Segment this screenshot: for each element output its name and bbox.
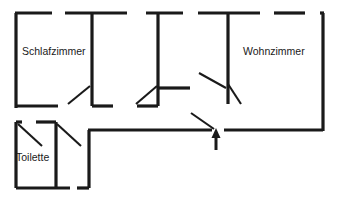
entrance-arrow-head	[212, 128, 221, 138]
door-toilette-left	[18, 124, 42, 146]
walls-group	[15, 13, 324, 188]
door-wohnzimmer-b	[228, 84, 241, 104]
room-label-toilette: Toilette	[16, 151, 49, 163]
room-labels-group: SchlafzimmerWohnzimmerToilette	[16, 45, 305, 163]
entrance-arrow-group	[212, 128, 221, 150]
door-toilette-right	[57, 124, 81, 146]
door-room3	[136, 86, 157, 104]
room-label-wohnzimmer: Wohnzimmer	[243, 45, 305, 57]
door-entry	[191, 113, 214, 129]
door-schlafzimmer	[68, 86, 90, 104]
room-label-schlafzimmer: Schlafzimmer	[22, 45, 86, 57]
door-wohnzimmer-a	[199, 73, 226, 88]
door-leaves-group	[18, 73, 241, 146]
floor-plan-drawing: SchlafzimmerWohnzimmerToilette	[0, 0, 345, 199]
floor-plan-canvas: SchlafzimmerWohnzimmerToilette	[0, 0, 345, 199]
